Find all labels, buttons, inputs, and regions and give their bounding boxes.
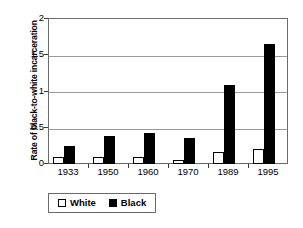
y-tick-label-0-5: 0.5 bbox=[4, 122, 44, 132]
x-tick-label-1970: 1970 bbox=[168, 167, 208, 177]
bar-group-1960 bbox=[128, 18, 168, 164]
y-tick-label-1-5: 1.5 bbox=[4, 49, 44, 59]
legend-label-black: Black bbox=[121, 198, 146, 208]
bar-group-1950 bbox=[88, 18, 128, 164]
y-tick-label-0: 0 bbox=[4, 158, 44, 168]
bar-black-1960 bbox=[144, 133, 155, 164]
bar-black-1950 bbox=[104, 136, 115, 164]
bars-layer bbox=[48, 18, 288, 164]
bar-black-1933 bbox=[64, 146, 75, 164]
bar-black-1995 bbox=[264, 44, 275, 164]
x-tick-label-1989: 1989 bbox=[208, 167, 248, 177]
bar-white-1950 bbox=[93, 157, 104, 164]
legend-item-black: Black bbox=[109, 198, 146, 208]
x-tick-label-1995: 1995 bbox=[248, 167, 288, 177]
bar-black-1989 bbox=[224, 85, 235, 164]
chart-legend: White Black bbox=[48, 193, 156, 213]
bar-group-1989 bbox=[208, 18, 248, 164]
x-tick-label-1933: 1933 bbox=[48, 167, 88, 177]
bar-group-1933 bbox=[48, 18, 88, 164]
bar-white-1995 bbox=[253, 149, 264, 164]
bar-white-1989 bbox=[213, 152, 224, 164]
x-tick-label-1960: 1960 bbox=[128, 167, 168, 177]
bar-white-1970 bbox=[173, 160, 184, 164]
x-tick-label-1950: 1950 bbox=[88, 167, 128, 177]
bar-black-1970 bbox=[184, 138, 195, 164]
bar-white-1933 bbox=[53, 157, 64, 164]
black-square-icon bbox=[109, 199, 117, 207]
y-tick-label-2: 2 bbox=[4, 13, 44, 23]
legend-item-white: White bbox=[58, 198, 96, 208]
bar-group-1970 bbox=[168, 18, 208, 164]
bar-chart: Rate of black-to-white incarceration 2 1… bbox=[0, 0, 303, 228]
white-square-icon bbox=[58, 199, 66, 207]
bar-group-1995 bbox=[248, 18, 288, 164]
legend-label-white: White bbox=[70, 198, 96, 208]
bar-white-1960 bbox=[133, 157, 144, 164]
y-tick-label-1: 1 bbox=[4, 86, 44, 96]
